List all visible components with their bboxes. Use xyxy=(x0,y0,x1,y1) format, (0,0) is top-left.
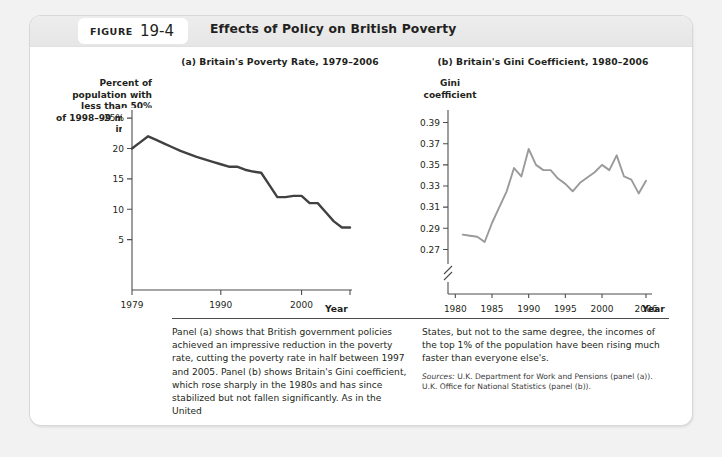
panel-a-ytick-5: 5 xyxy=(118,235,124,245)
panel-a-tick-labels: 510152025%1979199020002006 xyxy=(70,108,320,320)
sources-label: Sources: xyxy=(422,372,455,381)
panel-a-x-axis-label: Year xyxy=(325,303,348,314)
panel-b-xtick-1995: 1995 xyxy=(554,304,577,314)
figure-number-badge: Figure 19-4 xyxy=(78,18,188,44)
ylabel-b-line-1: Gini xyxy=(410,78,490,90)
panel-a-xtick-1990: 1990 xyxy=(209,300,232,310)
figure-header-band: Figure 19-4 Effects of Policy on British… xyxy=(30,16,692,47)
ylabel-a-line-2: population with xyxy=(30,90,152,102)
panel-b-xtick-1985: 1985 xyxy=(481,304,504,314)
caption-right-column: States, but not to the same degree, the … xyxy=(422,326,670,392)
panel-a-ytick-10: 10 xyxy=(113,205,125,215)
panel-b-ytick-0.29: 0.29 xyxy=(420,224,440,234)
panel-b-y-axis-label: Gini coefficient xyxy=(410,78,490,101)
ylabel-a-line-1: Percent of xyxy=(30,78,152,90)
panel-b-title: (b) Britain's Gini Coefficient, 1980–200… xyxy=(398,56,688,67)
panel-b-xtick-1990: 1990 xyxy=(517,304,540,314)
panel-a-xtick-1979: 1979 xyxy=(121,300,144,310)
caption-left-column: Panel (a) shows that British government … xyxy=(172,326,410,418)
panel-a-ytick-25%: 25% xyxy=(104,113,124,123)
panel-b-ytick-0.39: 0.39 xyxy=(420,118,440,128)
caption-right-text: States, but not to the same degree, the … xyxy=(422,327,660,363)
panel-a-title: (a) Britain's Poverty Rate, 1979–2006 xyxy=(130,56,430,67)
figure-number: 19-4 xyxy=(140,22,174,40)
panel-b-tick-labels: 0.270.290.310.330.350.370.39198019851990… xyxy=(386,108,666,320)
panel-b-ytick-0.31: 0.31 xyxy=(420,202,440,212)
sources-line-1: Sources: U.K. Department for Work and Pe… xyxy=(422,372,670,382)
sources-line-2: U.K. Office for National Statistics (pan… xyxy=(422,382,670,392)
ylabel-b-line-2: coefficient xyxy=(410,90,490,102)
panel-a-ytick-15: 15 xyxy=(113,174,124,184)
figure-card: Figure 19-4 Effects of Policy on British… xyxy=(30,16,692,425)
sources-block: Sources: U.K. Department for Work and Pe… xyxy=(422,372,670,392)
panel-b-ytick-0.37: 0.37 xyxy=(420,139,440,149)
panel-a-xtick-2000: 2000 xyxy=(290,300,313,310)
panel-b-xtick-2000: 2000 xyxy=(591,304,614,314)
caption-divider xyxy=(172,318,669,319)
figure-title: Effects of Policy on British Poverty xyxy=(210,22,457,36)
panel-b-ytick-0.33: 0.33 xyxy=(420,181,440,191)
panel-a-ytick-20: 20 xyxy=(113,144,125,154)
sources-text-1: U.K. Department for Work and Pensions (p… xyxy=(457,372,652,381)
panel-b-ytick-0.27: 0.27 xyxy=(420,245,440,255)
panel-b-x-axis-label: Year xyxy=(642,303,665,314)
figure-label: Figure xyxy=(90,26,133,37)
panel-b-xtick-1980: 1980 xyxy=(444,304,467,314)
panel-b-ytick-0.35: 0.35 xyxy=(420,160,440,170)
